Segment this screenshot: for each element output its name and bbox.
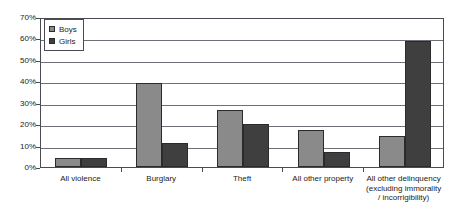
x-tick-mark: [202, 168, 203, 172]
bar-chart: 0%10%20%30%40%50%60%70% All violenceBurg…: [0, 0, 452, 210]
x-category-label-line: Burglary: [121, 174, 202, 184]
y-tick-label: 50%: [0, 57, 36, 65]
x-category-label-line: All violence: [40, 174, 121, 184]
x-category-label: Theft: [202, 174, 283, 184]
bar-girls-0: [81, 158, 107, 167]
plot-area: [40, 18, 444, 168]
x-tick-mark: [363, 168, 364, 172]
bar-girls-2: [243, 124, 269, 167]
y-tick-label: 70%: [0, 14, 36, 22]
legend-item-boys: Boys: [49, 23, 77, 35]
y-tick-mark: [36, 168, 40, 169]
bar-boys-2: [217, 110, 243, 167]
gridline: [41, 105, 443, 106]
bar-boys-1: [136, 83, 162, 167]
x-tick-mark: [121, 168, 122, 172]
x-category-label: All other property: [282, 174, 363, 184]
x-category-label: All violence: [40, 174, 121, 184]
y-tick-label: 0%: [0, 164, 36, 172]
y-tick-label: 40%: [0, 78, 36, 86]
x-category-label-line: All other delinquency: [363, 174, 444, 184]
x-axis-labels: All violenceBurglaryTheftAll other prope…: [40, 174, 444, 208]
gridline: [41, 62, 443, 63]
x-category-label: Burglary: [121, 174, 202, 184]
legend: Boys Girls: [44, 19, 84, 51]
y-tick-label: 60%: [0, 35, 36, 43]
x-tick-mark: [282, 168, 283, 172]
legend-swatch-icon: [49, 26, 55, 32]
gridline: [41, 40, 443, 41]
y-tick-label: 30%: [0, 100, 36, 108]
x-category-label-line: / incorrigibility): [363, 193, 444, 203]
bar-girls-4: [405, 41, 431, 167]
y-tick-label: 20%: [0, 121, 36, 129]
legend-label: Boys: [59, 25, 77, 34]
bar-boys-0: [55, 158, 81, 167]
bar-girls-1: [162, 143, 188, 167]
y-tick-label: 10%: [0, 143, 36, 151]
bar-boys-4: [379, 136, 405, 167]
x-category-label-line: Theft: [202, 174, 283, 184]
x-category-label-line: All other property: [282, 174, 363, 184]
y-axis: 0%10%20%30%40%50%60%70%: [0, 18, 36, 168]
bar-boys-3: [298, 130, 324, 168]
legend-item-girls: Girls: [49, 35, 77, 47]
bar-girls-3: [324, 152, 350, 167]
legend-label: Girls: [59, 37, 75, 46]
x-category-label-line: (excluding immorality: [363, 184, 444, 194]
legend-swatch-icon: [49, 38, 55, 44]
x-category-label: All other delinquency(excluding immorali…: [363, 174, 444, 203]
gridline: [41, 83, 443, 84]
